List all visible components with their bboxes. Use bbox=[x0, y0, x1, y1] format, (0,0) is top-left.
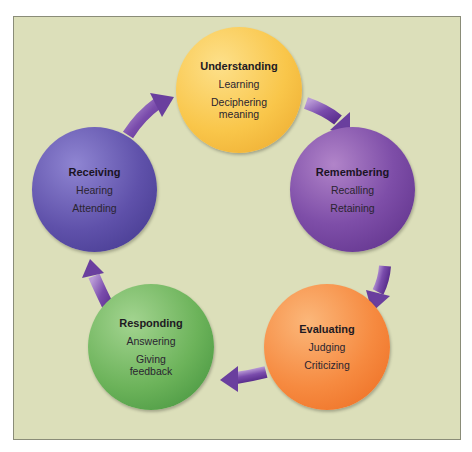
node-evaluating: Evaluating Judging Criticizing bbox=[264, 284, 390, 410]
node-line: Answering bbox=[126, 335, 175, 347]
node-title: Understanding bbox=[200, 60, 278, 72]
node-line: Judging bbox=[309, 341, 346, 353]
node-title: Responding bbox=[119, 317, 183, 329]
node-remembering: Remembering Recalling Retaining bbox=[290, 127, 415, 252]
node-understanding: Understanding Learning Deciphering meani… bbox=[176, 27, 302, 153]
node-line: Retaining bbox=[330, 202, 374, 214]
node-title: Remembering bbox=[316, 166, 389, 178]
node-line: Attending bbox=[72, 202, 116, 214]
node-title: Receiving bbox=[69, 166, 121, 178]
node-receiving: Receiving Hearing Attending bbox=[32, 127, 157, 252]
node-line: Learning bbox=[219, 78, 260, 90]
node-title: Evaluating bbox=[299, 323, 355, 335]
node-line: Deciphering meaning bbox=[211, 96, 267, 120]
node-responding: Responding Answering Giving feedback bbox=[88, 284, 214, 410]
node-line: Giving feedback bbox=[130, 353, 173, 377]
node-line: Hearing bbox=[76, 184, 113, 196]
node-line: Recalling bbox=[331, 184, 374, 196]
node-line: Criticizing bbox=[304, 359, 350, 371]
